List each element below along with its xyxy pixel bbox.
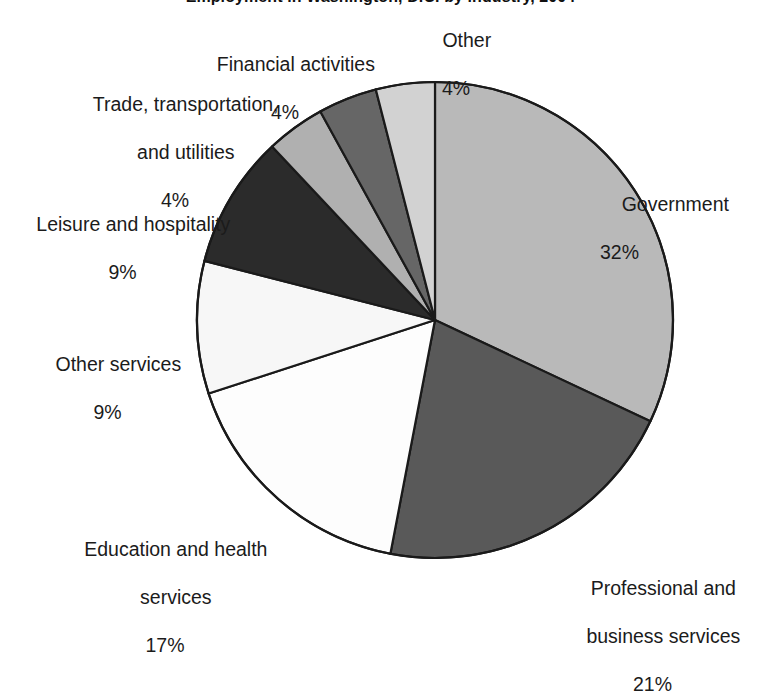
slice-label-professional-line1: Professional and xyxy=(591,577,736,599)
slice-label-education-line1: Education and health xyxy=(84,538,267,560)
slice-label-government-percent: 32% xyxy=(600,240,761,264)
slice-label-other-services-name: Other services xyxy=(55,353,181,375)
slice-label-other-name: Other xyxy=(442,29,491,51)
slice-label-other-services-percent: 9% xyxy=(0,400,215,424)
slice-label-professional-and-business-services: Professional and business services 21% xyxy=(545,552,760,695)
slice-label-other-percent: 4% xyxy=(396,76,516,100)
slice-label-leisure-and-hospitality: Leisure and hospitality 9% xyxy=(0,188,245,332)
slice-label-trade-line2: and utilities xyxy=(137,141,235,163)
slice-label-professional-line2: business services xyxy=(586,625,740,647)
slice-label-education-percent: 17% xyxy=(40,633,290,657)
slice-label-other: Other 4% xyxy=(396,4,516,148)
slice-label-education-and-health-services: Education and health services 17% xyxy=(40,513,290,695)
slice-label-leisure-percent: 9% xyxy=(0,260,245,284)
slice-label-government: Government 32% xyxy=(600,168,761,312)
slice-label-professional-percent: 21% xyxy=(545,672,760,695)
slice-label-leisure-name: Leisure and hospitality xyxy=(36,213,230,235)
slice-label-education-line2: services xyxy=(140,586,212,608)
slice-label-other-services: Other services 9% xyxy=(0,328,215,472)
slice-label-government-name: Government xyxy=(622,193,729,215)
slice-label-trade-line1: Trade, transportation, xyxy=(93,93,279,115)
